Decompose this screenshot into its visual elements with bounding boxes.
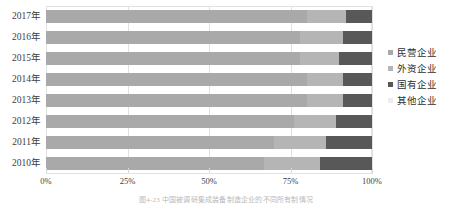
bar-segment[interactable] [307, 94, 343, 107]
legend-swatch-icon [388, 82, 393, 87]
legend-swatch-icon [388, 50, 393, 55]
y-axis-tick-label: 2012年 [0, 111, 41, 132]
bar-row[interactable] [46, 111, 372, 132]
bar-segment[interactable] [343, 73, 372, 86]
x-axis-tick [372, 168, 373, 172]
legend-item[interactable]: 外资企业 [388, 61, 452, 75]
legend-item[interactable]: 其他企业 [388, 93, 452, 107]
y-axis-tick-label: 2016年 [0, 27, 41, 48]
bar-segment[interactable] [307, 10, 346, 23]
legend-swatch-icon [388, 66, 393, 71]
stacked-bar-chart: 2017年2016年2015年2014年2013年2012年2011年2010年… [0, 0, 452, 207]
x-axis-tick-label: 0% [40, 176, 51, 186]
x-axis-tick [209, 168, 210, 172]
x-axis-tick-label: 100% [362, 176, 382, 186]
bar-segment[interactable] [46, 73, 307, 86]
gridline [372, 6, 373, 174]
chart-legend: 民营企业外资企业国有企业其他企业 [388, 45, 452, 109]
bar-segment[interactable] [46, 115, 294, 128]
y-axis-tick-label: 2013年 [0, 90, 41, 111]
legend-label: 其他企业 [397, 93, 437, 107]
x-axis-tick [46, 168, 47, 172]
x-axis-tick-label: 25% [120, 176, 136, 186]
bar-segment[interactable] [294, 115, 336, 128]
bar-segment[interactable] [307, 73, 343, 86]
x-axis-tick-label: 50% [201, 176, 217, 186]
legend-item[interactable]: 民营企业 [388, 45, 452, 59]
legend-label: 民营企业 [397, 45, 437, 59]
legend-swatch-icon [388, 98, 393, 103]
plot-wrapper: 2017年2016年2015年2014年2013年2012年2011年2010年… [0, 0, 380, 190]
bar-row[interactable] [46, 90, 372, 111]
bar-segment[interactable] [336, 115, 372, 128]
legend-item[interactable]: 国有企业 [388, 77, 452, 91]
bar-segment[interactable] [274, 136, 326, 149]
y-axis-tick-label: 2015年 [0, 48, 41, 69]
y-axis-tick-label: 2010年 [0, 153, 41, 174]
bar-segment[interactable] [46, 52, 300, 65]
bar-segment[interactable] [46, 157, 264, 170]
bar-segment[interactable] [46, 31, 300, 44]
x-axis-tick [128, 168, 129, 172]
bar-segment[interactable] [300, 52, 339, 65]
bar-row[interactable] [46, 69, 372, 90]
bar-segment[interactable] [346, 10, 372, 23]
bar-segment[interactable] [343, 94, 372, 107]
bar-row[interactable] [46, 27, 372, 48]
bar-segment[interactable] [46, 10, 307, 23]
plot-area [46, 6, 372, 174]
legend-label: 国有企业 [397, 77, 437, 91]
legend-label: 外资企业 [397, 61, 437, 75]
bar-segment[interactable] [46, 136, 274, 149]
bar-segment[interactable] [300, 31, 342, 44]
x-axis-tick-label: 75% [283, 176, 299, 186]
bar-row[interactable] [46, 6, 372, 27]
figure-caption: 图4-23 中国被调研集成装备制造企业的不同所有制情况 [0, 194, 452, 204]
bar-segment[interactable] [46, 94, 307, 107]
y-axis-labels: 2017年2016年2015年2014年2013年2012年2011年2010年 [0, 6, 44, 174]
bar-segment[interactable] [320, 157, 372, 170]
bar-segment[interactable] [326, 136, 372, 149]
bar-row[interactable] [46, 132, 372, 153]
x-axis-labels: 0%25%50%75%100% [46, 176, 372, 190]
bar-row[interactable] [46, 48, 372, 69]
bar-segment[interactable] [339, 52, 372, 65]
y-axis-tick-label: 2014年 [0, 69, 41, 90]
bar-segment[interactable] [343, 31, 372, 44]
bar-rows [46, 6, 372, 174]
x-axis-tick [291, 168, 292, 172]
y-axis-tick-label: 2011年 [0, 132, 41, 153]
bar-segment[interactable] [264, 157, 319, 170]
y-axis-tick-label: 2017年 [0, 6, 41, 27]
